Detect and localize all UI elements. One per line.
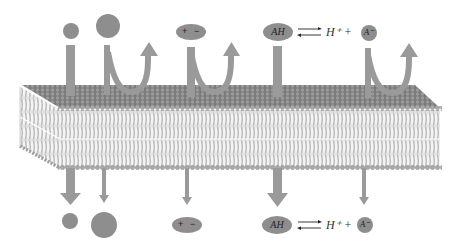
small-molecule-path-stem bbox=[66, 45, 75, 96]
proton-label-bottom: H⁺ + bbox=[326, 219, 352, 231]
minus-charge-top: − bbox=[194, 27, 199, 36]
membrane-bottom-head-row bbox=[58, 165, 442, 170]
plus-charge-top: + bbox=[182, 27, 187, 36]
arrow-down-icon bbox=[60, 193, 81, 205]
membrane-top-head-row bbox=[58, 106, 442, 111]
arrow-up-icon bbox=[140, 42, 158, 56]
equilibrium-arrows-icon bbox=[297, 27, 322, 37]
ah-path-stem bbox=[273, 46, 282, 97]
small-molecule-top bbox=[63, 23, 79, 39]
membrane-top-surface bbox=[22, 85, 440, 108]
charged-molecule-bottom bbox=[172, 217, 202, 233]
minus-charge-bottom: − bbox=[190, 220, 195, 229]
arrow-down-icon bbox=[359, 197, 369, 205]
small-molecule-bottom bbox=[62, 213, 78, 229]
arrow-up-icon bbox=[223, 42, 240, 56]
diagram-canvas bbox=[0, 0, 457, 249]
exit-arrows bbox=[60, 168, 369, 207]
charged-molecule-top bbox=[176, 24, 206, 40]
arrow-down-icon bbox=[267, 193, 288, 207]
proton-label-top: H⁺ + bbox=[326, 26, 352, 38]
arrow-down-icon bbox=[182, 197, 192, 205]
anion-label-top: A⁻ bbox=[362, 28, 376, 37]
plus-charge-bottom: + bbox=[178, 220, 183, 229]
large-molecule-top bbox=[96, 14, 120, 38]
arrow-up-icon bbox=[400, 43, 418, 57]
ah-label-bottom: AH bbox=[265, 220, 289, 230]
anion-label-bottom: A⁻ bbox=[358, 220, 372, 229]
equilibrium-arrows-icon bbox=[297, 220, 322, 230]
arrow-down-icon bbox=[99, 195, 109, 203]
large-molecule-bottom bbox=[91, 212, 117, 238]
large-molecule-group bbox=[96, 14, 158, 95]
membrane-diffusion-diagram: + − AH H⁺ + A⁻ + − AH H⁺ + A⁻ bbox=[0, 0, 457, 249]
ah-label-top: AH bbox=[266, 27, 290, 37]
lipid-bilayer bbox=[20, 85, 442, 170]
